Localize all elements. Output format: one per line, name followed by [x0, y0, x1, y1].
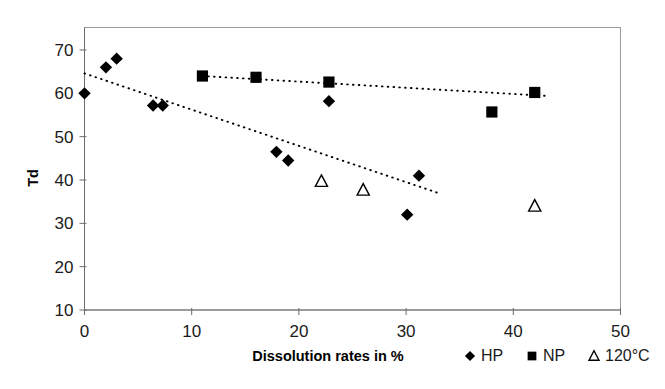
x-tick-label-10: 10 [182, 322, 201, 341]
legend-label-0: HP [481, 347, 503, 364]
data-point-np-2 [323, 76, 334, 87]
legend-marker-1 [528, 352, 537, 361]
y-tick-label-70: 70 [55, 41, 74, 60]
y-tick-label-30: 30 [55, 214, 74, 233]
y-tick-label-20: 20 [55, 258, 74, 277]
data-point-np-1 [250, 72, 261, 83]
chart-canvas: 10203040506070 01020304050 Td Dissolutio… [0, 0, 665, 389]
y-tick-label-50: 50 [55, 128, 74, 147]
data-point-np-0 [197, 70, 208, 81]
chart-legend: HPNP120°C [465, 347, 650, 364]
x-axis-title: Dissolution rates in % [252, 348, 404, 364]
chart-background [0, 0, 665, 389]
legend-label-1: NP [543, 347, 565, 364]
y-tick-label-10: 10 [55, 301, 74, 320]
x-tick-label-30: 30 [397, 322, 416, 341]
y-tick-label-60: 60 [55, 84, 74, 103]
data-point-np-4 [529, 87, 540, 98]
x-tick-label-40: 40 [504, 322, 523, 341]
scatter-chart-figure: 10203040506070 01020304050 Td Dissolutio… [0, 0, 665, 389]
data-point-np-3 [486, 106, 497, 117]
y-tick-label-40: 40 [55, 171, 74, 190]
x-tick-label-50: 50 [611, 322, 630, 341]
legend-label-2: 120°C [605, 347, 650, 364]
x-tick-label-0: 0 [80, 322, 89, 341]
y-axis-title: Td [25, 169, 41, 187]
x-tick-label-20: 20 [289, 322, 308, 341]
